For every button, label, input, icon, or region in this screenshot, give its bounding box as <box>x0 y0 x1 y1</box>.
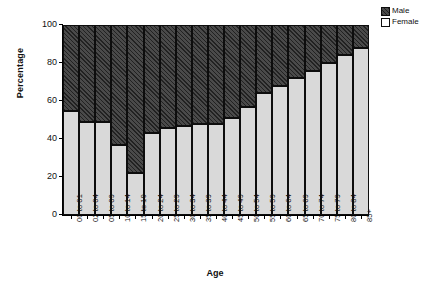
x-tick-mark <box>361 215 362 219</box>
legend-label: Female <box>392 17 419 27</box>
bar-segment-male <box>288 25 304 78</box>
y-tick-label: 80 <box>47 57 57 67</box>
x-tick-label: 60 to 64 <box>284 194 293 222</box>
x-tick-label: 70 to 74 <box>317 194 326 222</box>
table-row <box>272 25 288 215</box>
x-tick-label: 30 to 34 <box>188 194 197 222</box>
x-tick-label: 45 to 49 <box>236 194 245 222</box>
x-tick-label: 20 to 24 <box>156 194 165 222</box>
bar-segment-male <box>208 25 224 124</box>
y-axis-title: Percentage <box>15 17 25 129</box>
table-row <box>111 25 127 215</box>
table-row <box>337 25 353 215</box>
table-row <box>321 25 337 215</box>
x-tick-label: 55 to 59 <box>268 194 277 222</box>
x-tick-mark <box>152 215 153 219</box>
legend: MaleFemale <box>381 6 419 28</box>
x-tick-mark <box>200 215 201 219</box>
bar-segment-male <box>111 25 127 145</box>
bars-container <box>63 25 369 215</box>
bar-segment-male <box>353 25 369 48</box>
x-tick-label: 02 to 04 <box>91 194 100 222</box>
x-tick-label: 25 to 29 <box>172 194 181 222</box>
bar-segment-male <box>63 25 79 111</box>
x-tick-label: 50 to 54 <box>252 194 261 222</box>
y-tick-mark <box>59 100 63 101</box>
x-tick-mark <box>264 215 265 219</box>
table-row <box>353 25 369 215</box>
x-tick-mark <box>103 215 104 219</box>
table-row <box>95 25 111 215</box>
table-row <box>224 25 240 215</box>
bar-segment-female <box>353 48 369 215</box>
x-tick-mark <box>119 215 120 219</box>
y-tick-mark <box>59 138 63 139</box>
table-row <box>63 25 79 215</box>
x-tick-mark <box>184 215 185 219</box>
bar-segment-female <box>337 55 353 215</box>
x-tick-mark <box>280 215 281 219</box>
y-tick-mark <box>59 176 63 177</box>
x-tick-label: 05 to 09 <box>107 194 116 222</box>
y-tick-label: 0 <box>52 209 57 219</box>
legend-item-male: Male <box>381 6 419 16</box>
bar-segment-male <box>272 25 288 86</box>
table-row <box>288 25 304 215</box>
legend-swatch-male <box>381 7 390 16</box>
x-tick-mark <box>329 215 330 219</box>
x-tick-mark <box>87 215 88 219</box>
table-row <box>240 25 256 215</box>
x-tick-mark <box>232 215 233 219</box>
x-tick-mark <box>297 215 298 219</box>
x-tick-label: 00 to 01 <box>75 194 84 222</box>
bar-segment-male <box>127 25 143 173</box>
legend-label: Male <box>392 6 409 16</box>
x-tick-mark <box>313 215 314 219</box>
bar-segment-male <box>144 25 160 133</box>
x-tick-label: 75 to 79 <box>333 194 342 222</box>
x-tick-label: 85+ <box>365 209 374 222</box>
legend-item-female: Female <box>381 17 419 27</box>
bar-segment-male <box>224 25 240 118</box>
bar-segment-male <box>95 25 111 122</box>
x-tick-mark <box>135 215 136 219</box>
bar-segment-male <box>79 25 95 122</box>
y-tick-mark <box>59 24 63 25</box>
table-row <box>144 25 160 215</box>
stacked-bar-chart: Percentage 02040608010000 to 0102 to 040… <box>0 0 437 290</box>
bar-segment-male <box>337 25 353 55</box>
bar-segment-male <box>256 25 272 93</box>
bar-segment-male <box>321 25 337 63</box>
table-row <box>192 25 208 215</box>
bar-segment-male <box>176 25 192 126</box>
table-row <box>79 25 95 215</box>
x-tick-mark <box>248 215 249 219</box>
table-row <box>208 25 224 215</box>
bar-segment-male <box>240 25 256 107</box>
table-row <box>305 25 321 215</box>
x-tick-label: 65 to 69 <box>301 194 310 222</box>
bar-segment-male <box>192 25 208 124</box>
x-tick-mark <box>168 215 169 219</box>
y-tick-label: 100 <box>42 19 57 29</box>
table-row <box>127 25 143 215</box>
y-tick-mark <box>59 214 63 215</box>
table-row <box>256 25 272 215</box>
y-tick-label: 60 <box>47 95 57 105</box>
x-tick-label: 35 to 39 <box>204 194 213 222</box>
x-tick-label: 80 to 84 <box>349 194 358 222</box>
x-tick-mark <box>216 215 217 219</box>
y-tick-label: 40 <box>47 133 57 143</box>
x-tick-label: 40 to 44 <box>220 194 229 222</box>
bar-segment-male <box>305 25 321 71</box>
table-row <box>176 25 192 215</box>
table-row <box>160 25 176 215</box>
legend-swatch-female <box>381 18 390 27</box>
x-axis-title: Age <box>62 268 368 278</box>
x-tick-label: 15 to 19 <box>139 194 148 222</box>
y-tick-label: 20 <box>47 171 57 181</box>
bar-segment-female <box>321 63 337 215</box>
y-tick-mark <box>59 62 63 63</box>
plot-area: 02040608010000 to 0102 to 0405 to 0910 t… <box>62 25 369 216</box>
bar-segment-male <box>160 25 176 128</box>
